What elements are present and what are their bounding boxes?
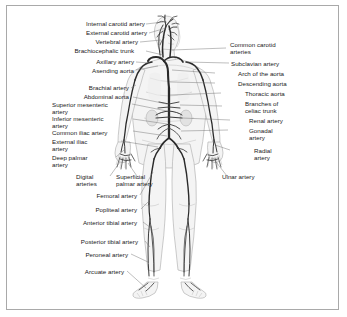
label-abdominal-aorta: Abdominal aorta xyxy=(55,93,129,100)
label-gonadal-artery: Gonadal artery xyxy=(249,127,299,141)
label-renal-artery: Renal artery xyxy=(249,117,319,124)
label-common-iliac-artery: Common iliac artery xyxy=(52,129,136,136)
label-common-carotid-arteries: Common carotid arteries xyxy=(230,41,300,55)
label-ulnar-artery: Ulnar artery xyxy=(222,173,284,180)
label-superior-mesenteric-artery: Superior mesenteric artery xyxy=(52,101,134,115)
label-brachial-artery: Brachial artery xyxy=(58,84,129,91)
label-femoral-artery: Femoral artery xyxy=(60,192,137,199)
label-digital-arteries: Digital arteries xyxy=(76,173,112,187)
label-external-iliac-artery: External iliac artery xyxy=(52,138,116,152)
label-branches-of-celiac-trunk: Branches of celiac trunk xyxy=(245,100,305,114)
label-arch-of-the-aorta: Arch of the aorta xyxy=(238,70,320,77)
label-thoracic-aorta: Thoracic aorta xyxy=(245,90,321,97)
label-posterior-tibial-artery: Posterior tibial artery xyxy=(46,238,138,245)
label-inferior-mesenteric-artery: Inferior mesenteric artery xyxy=(52,115,134,129)
label-asending-aorta: Asending aorta xyxy=(62,67,134,74)
label-internal-carotid-artery: Internal carotid artery xyxy=(48,20,145,27)
label-deep-palmar-artery: Deep palmar artery xyxy=(52,154,114,168)
label-brachiocephalic-trunk: Brachiocephalic trunk xyxy=(40,47,134,54)
label-descending-aorta: Descending aorta xyxy=(238,80,323,87)
label-vertebral-artery: Vertebral artery xyxy=(60,38,138,45)
label-axillary-artery: Axillary artery xyxy=(62,58,134,65)
label-radial-artery: Radial artery xyxy=(254,147,298,161)
label-anterior-tibial-artery: Anterior tibial artery xyxy=(48,219,137,226)
label-subclavian-artery: Subclavian artery xyxy=(231,60,315,67)
label-peroneal-artery: Peroneal artery xyxy=(52,251,128,258)
label-arcuate-artery: Arcuate artery xyxy=(52,268,124,275)
label-popliteal-artery: Popliteal artery xyxy=(58,206,137,213)
label-superficial-palmar-artery: Superficial palmar artery xyxy=(116,173,172,187)
label-external-carotid-artery: External carotid artery xyxy=(48,29,147,36)
